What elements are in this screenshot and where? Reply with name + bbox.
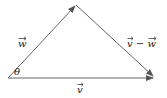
label-v-minus-w: v − w bbox=[127, 37, 156, 49]
vector-diagram: w v − w v θ bbox=[0, 0, 167, 98]
label-theta: θ bbox=[14, 66, 20, 77]
label-v: v bbox=[77, 83, 83, 95]
svg-text:w: w bbox=[18, 38, 27, 49]
label-w: w bbox=[18, 37, 27, 49]
